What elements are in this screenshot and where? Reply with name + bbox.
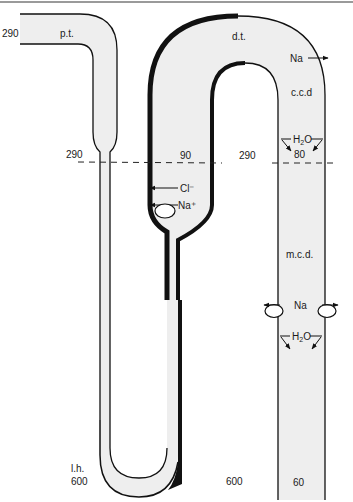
label-lh-600: 600 <box>71 476 88 487</box>
label-ccd: c.c.d <box>291 87 312 98</box>
proximal-tubule <box>20 14 117 420</box>
pump-icon-left <box>265 305 283 318</box>
label-ccd-80: 80 <box>294 149 306 160</box>
label-mcd: m.c.d. <box>286 249 313 260</box>
label-lh: l.h. <box>71 463 84 474</box>
pump-icon-right <box>318 305 336 318</box>
label-90: 90 <box>180 150 192 161</box>
label-dt: d.t. <box>232 31 246 42</box>
svg-text:Na: Na <box>294 300 307 311</box>
label-290-interstitium: 290 <box>239 150 256 161</box>
pump-icon <box>155 204 175 218</box>
nephron-diagram: 290 p.t. d.t. Na c.c.d 290 90 290 H2O 80… <box>0 0 353 502</box>
label-pt-290: 290 <box>2 28 19 39</box>
label-290-left: 290 <box>66 149 83 160</box>
label-600-interstitium: 600 <box>226 476 243 487</box>
svg-text:Cl⁻: Cl⁻ <box>180 183 194 194</box>
label-dt-na: Na <box>290 53 303 64</box>
label-pt: p.t. <box>60 28 74 39</box>
svg-text:Na⁺: Na⁺ <box>178 200 196 211</box>
label-mcd-60: 60 <box>293 477 305 488</box>
loop-of-henle-bend <box>100 300 178 497</box>
